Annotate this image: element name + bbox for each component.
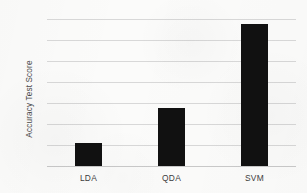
y-axis-title: Accuracy Test Score bbox=[23, 34, 37, 164]
bar-svm bbox=[241, 24, 268, 166]
bar-qda bbox=[158, 108, 185, 166]
x-axis-tick-label-lda: LDA bbox=[59, 173, 119, 183]
gridline bbox=[47, 166, 296, 167]
x-axis-tick-label-svm: SVM bbox=[225, 173, 285, 183]
bar-lda bbox=[75, 143, 102, 166]
plot-area: 85%83%81%79%77%75%73%71% bbox=[47, 19, 296, 166]
bar-chart-figure: Accuracy Test Score 85%83%81%79%77%75%73… bbox=[0, 0, 307, 193]
x-axis-tick-label-qda: QDA bbox=[142, 173, 202, 183]
gridline bbox=[47, 19, 296, 20]
